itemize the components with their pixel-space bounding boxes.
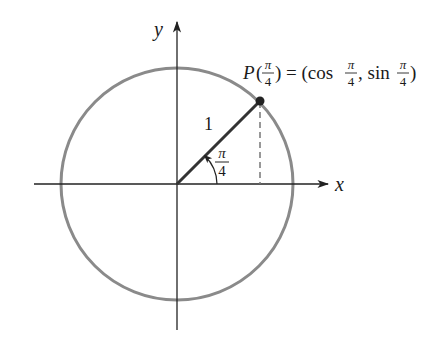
angle-label-denominator: 4 — [218, 163, 226, 179]
point-label-close-paren: ) — [410, 62, 416, 84]
point-label: P ( π 4 ) = (cos π 4 , sin π 4 ) — [242, 57, 416, 89]
x-axis-label: x — [334, 173, 344, 195]
radius-label: 1 — [204, 114, 213, 134]
sin-numerator: π — [400, 57, 407, 72]
point-label-open-paren: ( — [256, 62, 262, 84]
angle-label-numerator: π — [218, 145, 226, 161]
point-arg-denominator: 4 — [265, 74, 272, 89]
point-label-sep: , sin — [358, 62, 390, 83]
cos-numerator: π — [348, 57, 355, 72]
point-arg-numerator: π — [265, 57, 272, 72]
unit-circle-diagram: x y 1 π 4 P ( π 4 ) = (cos π 4 , sin π 4… — [0, 0, 437, 340]
sin-denominator: 4 — [400, 74, 407, 89]
point-label-mid: ) = (cos — [275, 62, 333, 84]
diagram-canvas: x y 1 π 4 P ( π 4 ) = (cos π 4 , sin π 4… — [0, 0, 437, 340]
cos-denominator: 4 — [348, 74, 355, 89]
angle-arc — [205, 156, 217, 184]
point-p — [256, 97, 265, 106]
y-axis-label: y — [152, 18, 163, 41]
point-label-p: P — [242, 62, 255, 83]
